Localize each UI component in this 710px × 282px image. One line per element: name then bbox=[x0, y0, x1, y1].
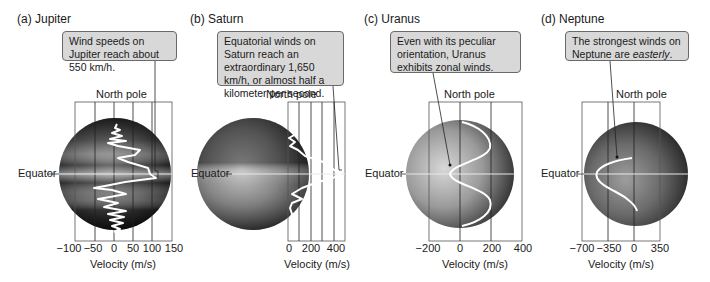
neptune-callout-emphasis: easterly bbox=[633, 48, 670, 60]
neptune-tick: −350 bbox=[597, 242, 622, 254]
saturn-callout: Equatorial winds on Saturn reach an extr… bbox=[217, 31, 344, 86]
uranus-tick: 200 bbox=[483, 242, 501, 254]
uranus-tick: 400 bbox=[514, 242, 532, 254]
neptune-tick: −700 bbox=[570, 242, 595, 254]
jupiter-tick: −50 bbox=[84, 242, 103, 254]
saturn-tick: 400 bbox=[327, 242, 345, 254]
uranus-tick: −200 bbox=[416, 242, 441, 254]
jupiter-tick: 150 bbox=[165, 242, 183, 254]
jupiter-equator-label: Equator bbox=[18, 167, 57, 179]
neptune-equator-label: Equator bbox=[541, 167, 580, 179]
uranus-callout: Even with its peculiar orientation, Uran… bbox=[390, 31, 521, 73]
jupiter-callout: Wind speeds on Jupiter reach about 550 k… bbox=[62, 31, 177, 61]
saturn-title: (b) Saturn bbox=[190, 12, 243, 26]
jupiter-xlabel: Velocity (m/s) bbox=[90, 258, 156, 270]
saturn-north-pole-label: North pole bbox=[266, 88, 317, 100]
saturn-tick: 0 bbox=[286, 242, 292, 254]
uranus-equator-label: Equator bbox=[365, 167, 404, 179]
saturn-xlabel: Velocity (m/s) bbox=[284, 258, 350, 270]
neptune-callout: The strongest winds on Neptune are easte… bbox=[565, 31, 689, 61]
saturn-equator-label: Equator bbox=[191, 167, 230, 179]
jupiter-tick: 0 bbox=[111, 242, 117, 254]
neptune-north-pole-label: North pole bbox=[616, 88, 667, 100]
saturn-tick: 200 bbox=[302, 242, 320, 254]
jupiter-tick: −100 bbox=[57, 242, 82, 254]
neptune-tick: 350 bbox=[651, 242, 669, 254]
jupiter-tick: 100 bbox=[143, 242, 161, 254]
uranus-xlabel: Velocity (m/s) bbox=[442, 258, 508, 270]
neptune-callout-period: . bbox=[669, 48, 672, 60]
uranus-north-pole-label: North pole bbox=[444, 88, 495, 100]
uranus-title: (c) Uranus bbox=[364, 12, 420, 26]
neptune-xlabel: Velocity (m/s) bbox=[588, 258, 654, 270]
jupiter-tick: 50 bbox=[127, 242, 139, 254]
neptune-title: (d) Neptune bbox=[541, 12, 604, 26]
jupiter-north-pole-label: North pole bbox=[96, 88, 147, 100]
jupiter-title: (a) Jupiter bbox=[17, 12, 71, 26]
uranus-tick: 0 bbox=[457, 242, 463, 254]
neptune-tick: 0 bbox=[631, 242, 637, 254]
saturn-panel bbox=[197, 86, 345, 241]
